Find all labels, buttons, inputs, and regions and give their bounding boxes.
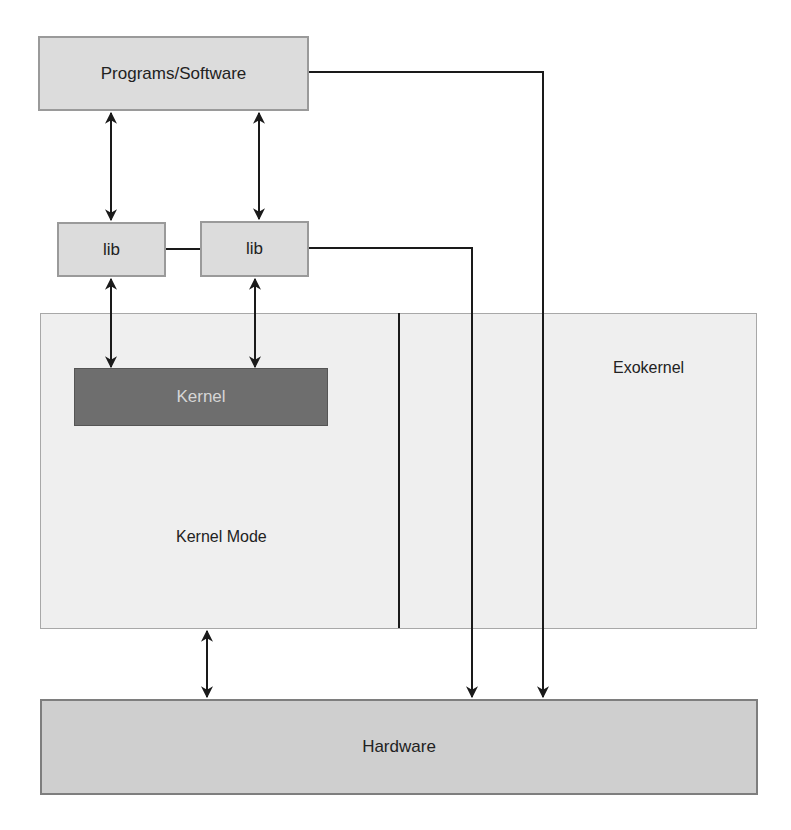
arrow-lib2-hardware <box>309 248 472 697</box>
connector-layer <box>0 0 791 830</box>
arrow-programs-hardware <box>309 72 543 697</box>
